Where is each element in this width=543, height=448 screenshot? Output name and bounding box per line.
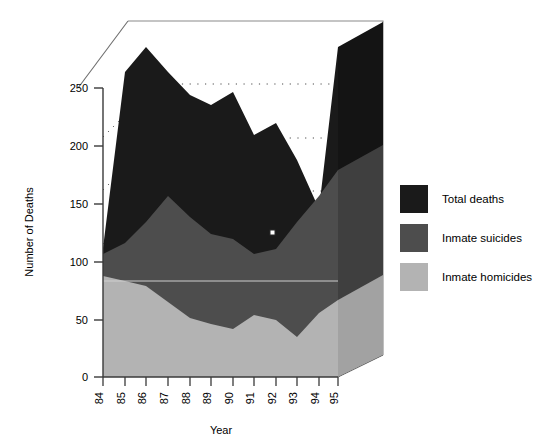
y-tick-label-100: 100	[70, 256, 88, 268]
y-tick-label-150: 150	[70, 198, 88, 210]
legend-swatch-inmate-suicides[interactable]	[400, 224, 428, 252]
x-tick-label-84: 84	[93, 392, 105, 404]
legend-swatch-total-deaths[interactable]	[400, 185, 428, 213]
y-axis: 250 200 150 100 50 0 Number of Deaths	[23, 82, 103, 383]
y-tick-label-200: 200	[70, 140, 88, 152]
x-tick-label-93: 93	[287, 392, 299, 404]
y-tick-label-250: 250	[70, 82, 88, 94]
x-tick-label-85: 85	[115, 392, 127, 404]
depth-edge-top-left	[78, 21, 128, 88]
legend-label-inmate-suicides: Inmate suicides	[442, 232, 522, 244]
y-tick-label-50: 50	[76, 314, 88, 326]
x-tick-label-95: 95	[328, 392, 340, 404]
legend-label-total-deaths: Total deaths	[442, 193, 504, 205]
legend-swatch-inmate-homicides[interactable]	[400, 263, 428, 291]
x-tick-label-94: 94	[309, 392, 321, 404]
legend-label-inmate-homicides: Inmate homicides	[442, 271, 532, 283]
y-axis-title: Number of Deaths	[23, 187, 35, 277]
chart-container: 250 200 150 100 50 0 Number of Deaths 84…	[0, 0, 543, 448]
x-tick-label-91: 91	[244, 392, 256, 404]
data-point-marker	[270, 230, 275, 235]
x-tick-label-90: 90	[223, 392, 235, 404]
x-tick-label-87: 87	[158, 392, 170, 404]
area-chart-svg: 250 200 150 100 50 0 Number of Deaths 84…	[0, 0, 543, 448]
x-tick-label-88: 88	[180, 392, 192, 404]
x-tick-label-86: 86	[136, 392, 148, 404]
x-tick-label-89: 89	[201, 392, 213, 404]
x-tick-label-92: 92	[266, 392, 278, 404]
chart-legend: Total deaths Inmate suicides Inmate homi…	[400, 185, 532, 291]
y-tick-label-0: 0	[82, 371, 88, 383]
x-axis-title: Year	[210, 424, 233, 436]
x-axis: 84 85 86 87 88 89 90 91 92 93 94 95 Year	[93, 377, 340, 436]
